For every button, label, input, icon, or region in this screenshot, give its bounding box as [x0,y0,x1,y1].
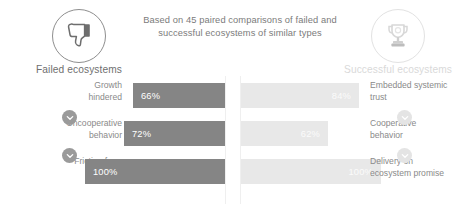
chevron-down-icon [397,148,412,163]
header-caption: Based on 45 paired comparisons of failed… [137,14,343,39]
bar-right: 84% [241,83,359,108]
trophy-icon [383,21,413,51]
row-label-right: Cooperative behavior [370,118,474,141]
bar-left-value: 72% [132,129,151,139]
row-label-left: Growth hindered [18,80,122,103]
chevron-down-icon [62,110,77,125]
row-label-right-line-2: trust [370,92,387,102]
header-caption-line-1: Based on 45 paired comparisons of failed… [137,14,343,27]
bar-left-value: 100% [93,167,118,177]
row-label-right: Embedded systemic trust [370,80,474,103]
chevron-down-icon [397,110,412,125]
header-caption-line-2: successful ecosystems of similar types [137,27,343,40]
bar-right-value: 62% [301,129,320,139]
comparison-row: Growth hindered 66% 84% Embedded systemi… [0,83,474,109]
bar-left: 100% [85,159,225,184]
bar-left-value: 66% [141,91,160,101]
bar-left: 66% [133,83,225,108]
row-label-right-line-2: ecosystem promise [370,168,444,178]
row-label-left-line-2: hindered [89,92,122,102]
successful-ecosystems-title: Successful ecosystems [337,64,459,75]
row-label-right-line-1: Embedded systemic [370,80,447,90]
failed-ecosystems-badge [52,9,106,63]
row-label-left-line-2: behavior [89,130,122,140]
failed-ecosystems-title: Failed ecosystems [18,64,140,75]
row-label-right: Delivery on ecosystem promise [370,156,474,179]
chevron-down-icon [62,148,77,163]
successful-ecosystems-badge [371,9,425,63]
bar-left: 72% [124,121,225,146]
bar-right: 100% [241,159,381,184]
thumbs-down-icon [64,21,94,51]
infographic-root: Based on 45 paired comparisons of failed… [0,0,474,207]
bar-right: 62% [241,121,328,146]
bar-right-value: 84% [332,91,351,101]
row-label-left-line-1: Growth [94,80,122,90]
row-label-right-line-2: behavior [370,130,403,140]
